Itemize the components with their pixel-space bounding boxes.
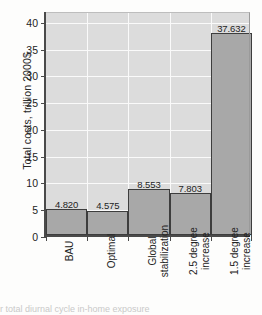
y-axis-tick (41, 103, 46, 104)
x-axis-tick (128, 235, 129, 241)
x-axis-tick (87, 235, 88, 241)
bar-value-label: 4.575 (96, 200, 119, 211)
bar[interactable] (87, 211, 128, 236)
y-axis-tick (41, 76, 46, 77)
x-axis-category-3: Globalstabilization (126, 247, 167, 309)
x-axis-category-4: 2.5 degreeincrease (168, 247, 209, 309)
category-label-text: Globalstabilization (147, 225, 170, 277)
x-axis-tick (46, 235, 47, 241)
y-axis-tick (41, 183, 46, 184)
bar-value-label: 37.632 (217, 23, 245, 34)
bar-value-label: 8.553 (137, 179, 160, 190)
y-axis-tick-label: 25 (26, 97, 38, 109)
y-axis-tick-label: 15 (26, 151, 38, 163)
bar[interactable] (46, 209, 87, 235)
bar-value-label: 4.820 (55, 199, 78, 210)
y-axis-tick (41, 50, 46, 51)
category-label-text: BAU (65, 241, 77, 262)
y-axis-tick (41, 130, 46, 131)
x-axis-category-2: Optimal (85, 247, 126, 309)
y-axis-tick (41, 157, 46, 158)
y-axis-tick-label: 40 (26, 17, 38, 29)
y-axis-tick-label: 20 (26, 124, 38, 136)
y-axis-tick-label: 10 (26, 177, 38, 189)
category-label-text: Optimal (106, 234, 118, 268)
plot-area: 05101520253035404.8204.5758.5537.80337.6… (44, 12, 250, 237)
y-axis-tick-label: 0 (32, 231, 38, 243)
bar-value-label: 7.803 (179, 183, 202, 194)
category-label-text: 1.5 degreeincrease (229, 227, 252, 275)
y-axis-tick (41, 23, 46, 24)
x-gridline (87, 12, 88, 235)
x-axis-tick (211, 235, 212, 241)
category-label-text: 2.5 degreeincrease (188, 227, 211, 275)
x-axis-category-1: BAU (44, 247, 85, 309)
x-axis-category-5: 1.5 degreeincrease (209, 247, 250, 309)
y-axis-tick-label: 30 (26, 70, 38, 82)
scan-artifact-text: r total diurnal cycle in-home exposure (0, 304, 262, 315)
y-axis-tick-label: 35 (26, 44, 38, 56)
y-axis-tick-label: 5 (32, 204, 38, 216)
bar-chart-figure: Total costs, trillion 2000$ 051015202530… (0, 0, 262, 315)
bar[interactable] (211, 33, 252, 235)
